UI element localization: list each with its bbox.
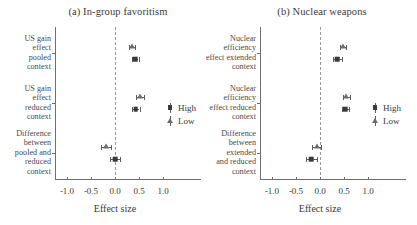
panel-b-legend: High Low — [369, 101, 401, 127]
panel-b-y-axis — [260, 27, 261, 180]
panel-b-title: (b) Nuclear weapons — [208, 6, 417, 17]
panel-a-title: (a) In-group favoritism — [0, 6, 222, 17]
triangle-marker-icon — [369, 114, 381, 127]
panel-a-category-label-2: US gaineffectreducedcontext — [24, 84, 51, 122]
square-marker — [113, 157, 118, 162]
panel-b-category-label-2: Nuclearefficiencyeffect reducedcontext — [210, 84, 256, 122]
triangle-marker — [137, 94, 143, 99]
panel-a-x-tick-label-3: 0.0 — [109, 186, 120, 196]
square-marker-icon — [164, 101, 176, 114]
panel-b-zero-reference-line — [320, 27, 321, 180]
panel-a-x-tick-0.5 — [139, 177, 140, 180]
panel-a-x-tick-label-2: -0.5 — [84, 186, 98, 196]
panel-a-x-tick-label-5: 1.0 — [157, 186, 168, 196]
forest-plot-figure: (a) In-group favoritism US gaineffectpoo… — [0, 0, 417, 225]
panel-a-plot-area: US gaineffectpooledcontext US gaineffect… — [55, 27, 175, 180]
square-marker — [133, 107, 138, 112]
panel-a-category-label-1: US gaineffectpooledcontext — [24, 34, 51, 72]
panel-b-x-tick--0.5 — [296, 177, 297, 180]
panel-b-x-tick-label-2: -0.5 — [289, 186, 303, 196]
square-marker — [133, 57, 138, 62]
panel-b-x-axis — [260, 179, 406, 180]
square-marker — [343, 107, 348, 112]
panel-a-y-tick-3 — [52, 153, 55, 154]
panel-a-legend-label-high: High — [178, 103, 196, 113]
panel-b-x-tick-label-3: 0.0 — [314, 186, 325, 196]
triangle-marker — [103, 144, 109, 149]
panel-in-group-favoritism: (a) In-group favoritism US gaineffectpoo… — [0, 0, 208, 225]
panel-a-x-tick-label-4: 0.5 — [133, 186, 144, 196]
panel-nuclear-weapons: (b) Nuclear weapons Nuclearefficiencyeff… — [208, 0, 416, 225]
panel-b-x-axis-label: Effect size — [260, 203, 380, 214]
triangle-marker — [314, 144, 320, 149]
panel-a-legend: High Low — [164, 101, 196, 127]
panel-b-y-tick-3 — [257, 153, 260, 154]
panel-a-x-tick-label-1: -1.0 — [60, 186, 74, 196]
square-marker — [335, 57, 340, 62]
panel-a-x-tick--1.0 — [67, 177, 68, 180]
panel-a-x-tick--0.5 — [91, 177, 92, 180]
panel-a-category-label-3: Differencebetweenpooled andreducedcontex… — [15, 129, 51, 176]
panel-a-x-tick-1.0 — [163, 177, 164, 180]
panel-a-legend-item-low: Low — [164, 114, 196, 127]
triangle-marker — [129, 44, 135, 49]
panel-a-y-tick-2 — [52, 103, 55, 104]
panel-a-x-axis-label: Effect size — [55, 203, 175, 214]
panel-b-category-label-3: Differencebetweenextendedand reducedcont… — [216, 129, 256, 176]
panel-b-x-tick-label-5: 1.0 — [362, 186, 373, 196]
panel-b-legend-label-high: High — [383, 103, 401, 113]
panel-b-x-tick-label-1: -1.0 — [265, 186, 279, 196]
panel-b-y-tick-2 — [257, 103, 260, 104]
panel-a-legend-item-high: High — [164, 101, 196, 114]
panel-b-y-tick-1 — [257, 53, 260, 54]
panel-b-x-tick-label-4: 0.5 — [338, 186, 349, 196]
triangle-marker — [340, 44, 346, 49]
panel-b-category-label-1: Nuclearefficiencyeffect extendedcontext — [206, 34, 256, 72]
panel-b-legend-item-high: High — [369, 101, 401, 114]
panel-b-legend-item-low: Low — [369, 114, 401, 127]
panel-b-x-tick-0.5 — [344, 177, 345, 180]
triangle-marker-icon — [164, 114, 176, 127]
panel-b-x-tick--1.0 — [272, 177, 273, 180]
panel-b-x-tick-1.0 — [368, 177, 369, 180]
panel-b-plot-area: Nuclearefficiencyeffect extendedcontext … — [260, 27, 380, 180]
panel-a-x-axis — [55, 179, 201, 180]
square-marker-icon — [369, 101, 381, 114]
panel-a-legend-label-low: Low — [178, 116, 195, 126]
panel-b-x-tick-0.0 — [320, 177, 321, 180]
triangle-marker — [343, 94, 349, 99]
panel-a-y-axis — [55, 27, 56, 180]
panel-a-y-tick-1 — [52, 53, 55, 54]
panel-b-legend-label-low: Low — [383, 116, 400, 126]
panel-a-x-tick-0.0 — [115, 177, 116, 180]
square-marker — [309, 157, 314, 162]
